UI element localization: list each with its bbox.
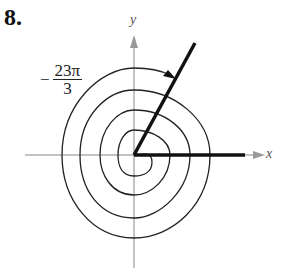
angle-fraction: 23π 3 [53,62,83,98]
x-axis-label: x [266,146,272,162]
x-axis-arrow-icon [253,151,265,159]
y-axis-arrow-icon [130,35,138,48]
angle-measure-label: − 23π 3 [40,62,82,98]
spiral-arrowhead-icon [163,70,176,79]
angle-denominator: 3 [63,80,72,98]
angle-sign: − [40,70,50,90]
angle-diagram [0,0,285,268]
angle-numerator: 23π [53,62,83,80]
y-axis-label: y [130,12,136,28]
